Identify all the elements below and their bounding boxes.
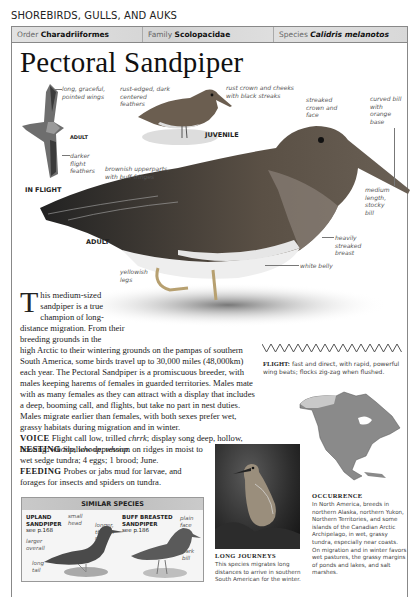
flight-label: FLIGHT: bbox=[263, 360, 290, 367]
family-value: Scolopacidae bbox=[175, 30, 231, 39]
flight-description: FLIGHT: fast and direct, with rapid, pow… bbox=[263, 360, 408, 376]
taxonomy-family: Family Scolopacidae bbox=[143, 27, 274, 42]
similar-species-box: SIMILAR SPECIES UPLAND SANDPIPER see p.1… bbox=[21, 497, 204, 582]
feeding-label: FEEDING bbox=[20, 466, 61, 476]
order-label: Order bbox=[17, 30, 38, 39]
upland-sandpiper-illustration bbox=[42, 518, 132, 580]
voice-text: Flight call low, trilled bbox=[52, 433, 126, 443]
taxonomy-order: Order Charadriiformes bbox=[12, 27, 143, 42]
buff-breasted-sandpiper-illustration bbox=[127, 520, 207, 580]
voice-label: VOICE bbox=[20, 433, 50, 443]
nesting-label: NESTING bbox=[20, 444, 61, 454]
label-rust-crown: rust crown and cheeks with black streaks bbox=[226, 84, 296, 99]
leader-line bbox=[394, 128, 395, 186]
photo-caption: This species migrates long distances to … bbox=[215, 561, 307, 584]
label-belly: white belly bbox=[300, 262, 340, 270]
leader-line bbox=[322, 237, 334, 238]
section-title: SHOREBIRDS, GULLS, AND AUKS bbox=[11, 10, 177, 21]
occurrence-text: In North America, breeds in northern Ala… bbox=[312, 501, 407, 577]
nesting-feeding-block: NESTING Shallow depression on ridges in … bbox=[20, 444, 205, 488]
label-rust-edged: rust-edged, dark centered feathers bbox=[120, 85, 172, 108]
feeding-paragraph: FEEDING Probes or jabs mud for larvae, a… bbox=[20, 466, 205, 488]
label-legs: yellowish legs bbox=[120, 268, 146, 283]
taxonomy-species: Species Calidris melanotos bbox=[274, 27, 407, 42]
occurrence-title: OCCURRENCE bbox=[312, 492, 363, 499]
species-label: Species bbox=[279, 30, 308, 39]
sandpiper-photo-illustration bbox=[215, 444, 300, 549]
label-crown: streaked crown and face bbox=[306, 96, 352, 119]
long-journeys-photo bbox=[215, 444, 300, 549]
label-bill-color: curved bill with orange base bbox=[370, 95, 404, 125]
species-value: Calidris melanotos bbox=[310, 30, 389, 39]
nesting-paragraph: NESTING Shallow depression on ridges in … bbox=[20, 444, 205, 466]
range-map bbox=[296, 390, 406, 490]
label-upperparts: brownish upperparts, with buff fringes bbox=[105, 165, 175, 180]
similar-species-header: SIMILAR SPECIES bbox=[22, 498, 203, 510]
label-breast: heavily streaked breast bbox=[335, 234, 367, 257]
label-wings: long, graceful, pointed wings bbox=[62, 85, 112, 100]
intro-paragraph-wide: high Arctic to their wintering grounds o… bbox=[20, 345, 260, 455]
intro-paragraph-narrow: This medium-sized sandpiper is a true ch… bbox=[20, 290, 125, 345]
leader-line bbox=[265, 265, 299, 266]
label-bill-shape: medium length, stocky bill bbox=[365, 186, 395, 216]
intro-text-wide: high Arctic to their wintering grounds o… bbox=[20, 345, 255, 432]
flight-pattern-zigzag-icon bbox=[262, 342, 402, 354]
order-value: Charadriiformes bbox=[41, 30, 109, 39]
family-label: Family bbox=[148, 30, 172, 39]
leader-line bbox=[55, 89, 62, 90]
dropcap: T bbox=[20, 291, 38, 313]
taxonomy-bar: Order Charadriiformes Family Scolopacida… bbox=[11, 26, 408, 43]
adult-caption: ADULT bbox=[86, 238, 109, 246]
photo-title: LONG JOURNEYS bbox=[215, 552, 276, 559]
voice-call: chrrk bbox=[128, 433, 147, 443]
page-title: Pectoral Sandpiper bbox=[20, 46, 243, 79]
